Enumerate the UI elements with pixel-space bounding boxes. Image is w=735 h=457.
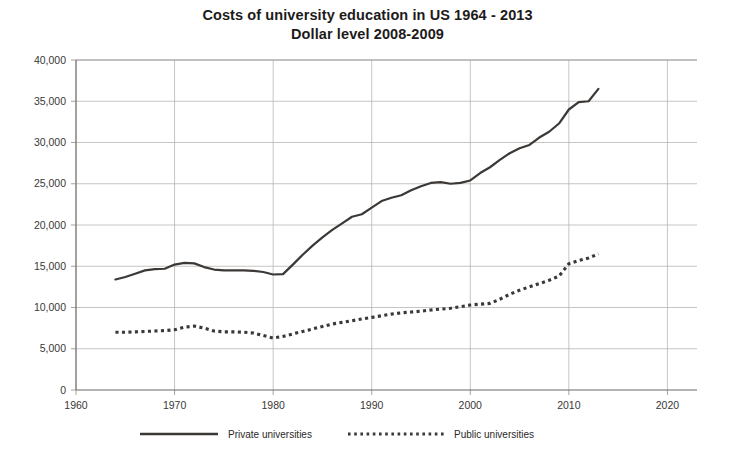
x-axis-tick-labels: 1960197019801990200020102020 xyxy=(64,399,679,411)
y-gridlines xyxy=(71,60,697,390)
y-tick-label: 5,000 xyxy=(40,342,66,354)
y-tick-label: 10,000 xyxy=(34,301,66,313)
legend-item-private[interactable]: Private universities xyxy=(140,429,312,440)
series-line-private xyxy=(115,89,598,280)
x-tick-label: 1960 xyxy=(64,399,88,411)
legend-item-public[interactable]: Public universities xyxy=(348,429,534,440)
chart-container: Costs of university education in US 1964… xyxy=(0,0,735,457)
x-tick-label: 2010 xyxy=(557,399,581,411)
legend-label: Private universities xyxy=(228,429,312,440)
y-tick-label: 20,000 xyxy=(34,219,66,231)
x-tick-label: 1990 xyxy=(360,399,384,411)
x-gridlines xyxy=(76,60,667,395)
y-tick-label: 30,000 xyxy=(34,136,66,148)
x-tick-label: 2020 xyxy=(656,399,680,411)
chart-legend: Private universitiesPublic universities xyxy=(140,429,534,440)
x-tick-label: 1970 xyxy=(163,399,187,411)
y-tick-label: 15,000 xyxy=(34,260,66,272)
y-tick-label: 25,000 xyxy=(34,177,66,189)
data-series-layer xyxy=(115,89,598,338)
y-tick-label: 0 xyxy=(60,384,66,396)
line-chart-plot: 05,00010,00015,00020,00025,00030,00035,0… xyxy=(0,0,735,457)
x-tick-label: 1980 xyxy=(261,399,285,411)
legend-label: Public universities xyxy=(454,429,534,440)
y-tick-label: 40,000 xyxy=(34,54,66,66)
y-axis-tick-labels: 05,00010,00015,00020,00025,00030,00035,0… xyxy=(34,54,66,396)
y-tick-label: 35,000 xyxy=(34,95,66,107)
x-tick-label: 2000 xyxy=(459,399,483,411)
